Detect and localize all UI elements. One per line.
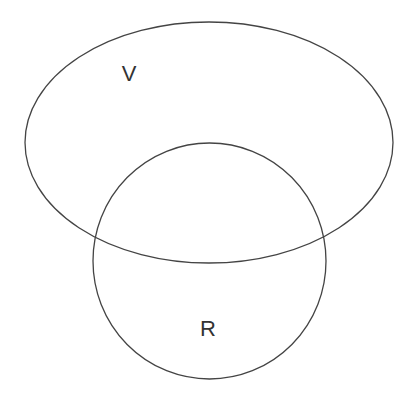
set-r-circle <box>93 143 326 379</box>
set-r-label: R <box>200 316 216 341</box>
venn-diagram: V R <box>0 0 414 395</box>
set-v-label: V <box>122 61 137 86</box>
diagram-svg: V R <box>0 0 414 395</box>
